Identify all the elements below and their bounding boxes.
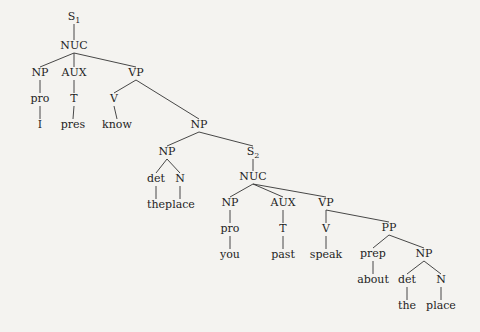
tree-leaf-word: the (147, 198, 165, 211)
tree-node-label: pro (221, 222, 240, 235)
tree-node-label: NP (415, 247, 433, 260)
tree-node-label: S2 (247, 145, 260, 160)
tree-node-label: NP (31, 66, 49, 79)
tree-node-label: N (436, 273, 446, 286)
tree-node-label: NP (190, 118, 208, 131)
tree-nodes: S1NUCNPAUXVPproTVIpresknowNPNPS2detNNUCt… (31, 10, 456, 312)
tree-node-label: NUC (60, 39, 87, 52)
tree-node-label: AUX (269, 196, 295, 209)
tree-node-label: prep (360, 247, 386, 260)
tree-edge (74, 53, 136, 67)
tree-edge (136, 80, 199, 119)
tree-node-label: V (109, 92, 119, 105)
tree-edge (167, 132, 199, 146)
tree-leaf-word: I (38, 118, 42, 131)
tree-leaf-word: the (398, 299, 416, 312)
tree-leaf-word: pres (61, 118, 86, 131)
tree-leaf-word: place (165, 198, 195, 211)
tree-leaf-word: speak (310, 248, 343, 261)
tree-node-label: AUX (60, 66, 86, 79)
tree-leaf-word: place (426, 299, 456, 312)
tree-node-label: PP (382, 221, 397, 234)
tree-leaf-word: you (219, 248, 240, 261)
tree-node-label: pro (31, 92, 50, 105)
tree-node-label: VP (127, 66, 144, 79)
tree-node-label: NUC (239, 170, 266, 183)
tree-leaf-word: know (102, 118, 132, 131)
tree-node-label: T (279, 222, 287, 235)
tree-edge (40, 53, 74, 67)
tree-edge (167, 159, 180, 173)
tree-node-label: N (175, 172, 185, 185)
tree-edge (156, 159, 167, 173)
tree-node-label: V (321, 222, 331, 235)
tree-edge (326, 210, 389, 222)
tree-node-label: VP (317, 196, 334, 209)
tree-node-label: det (147, 172, 166, 185)
tree-node-label: NP (221, 196, 239, 209)
tree-leaf-word: about (357, 273, 389, 286)
tree-node-label: T (70, 92, 78, 105)
syntax-tree-diagram: S1NUCNPAUXVPproTVIpresknowNPNPS2detNNUCt… (0, 0, 480, 332)
tree-edge (199, 132, 253, 146)
tree-node-label: S1 (68, 10, 81, 25)
tree-node-label: NP (158, 145, 176, 158)
tree-leaf-word: past (271, 248, 295, 261)
tree-node-label: det (398, 273, 417, 286)
